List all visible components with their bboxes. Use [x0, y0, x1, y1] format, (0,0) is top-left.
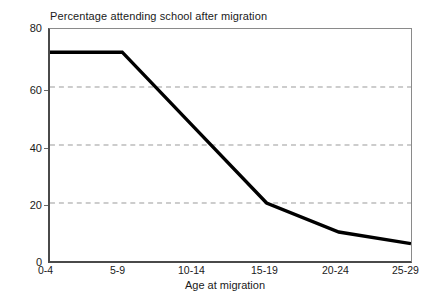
y-axis: 80 60 40 20 0	[0, 0, 42, 305]
y-tick-label-60: 60	[30, 85, 42, 96]
gridlines	[50, 87, 411, 203]
y-tick-label-40: 40	[30, 143, 42, 154]
plot-area	[50, 29, 411, 261]
data-line-series-1	[50, 52, 411, 243]
x-tick-label-20-24: 20-24	[322, 264, 349, 276]
y-tick-label-80: 80	[30, 23, 42, 34]
x-tick-label-10-14: 10-14	[178, 264, 205, 276]
chart-title: Percentage attending school after migrat…	[50, 10, 267, 23]
plot-frame	[48, 28, 412, 263]
chart-figure: Percentage attending school after migrat…	[0, 0, 440, 305]
x-tick-label-15-19: 15-19	[251, 264, 278, 276]
x-tick-label-0-4: 0-4	[38, 264, 53, 276]
x-tick-label-25-29: 25-29	[392, 264, 419, 276]
x-tick-label-5-9: 5-9	[110, 264, 125, 276]
x-axis-title-label: Age at migration	[185, 279, 265, 291]
x-axis-title: Age at migration	[0, 279, 440, 292]
y-tick-label-20: 20	[30, 200, 42, 211]
